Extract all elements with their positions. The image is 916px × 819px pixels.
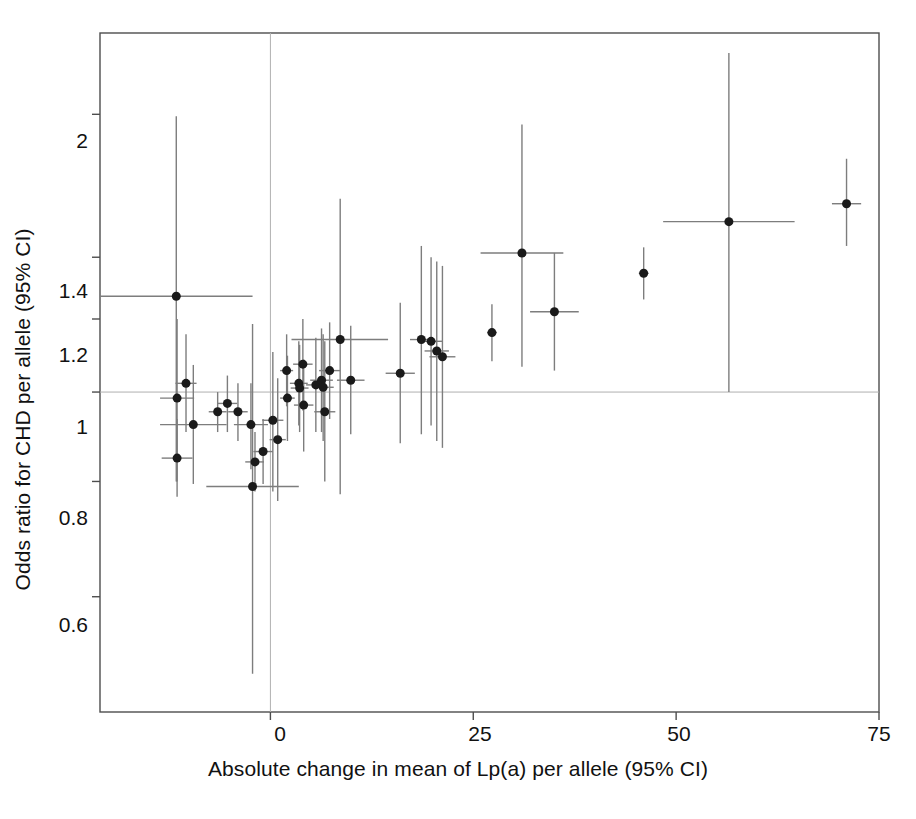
data-point-marker — [487, 328, 496, 337]
reference-lines — [100, 33, 879, 712]
plot-frame-rect — [100, 33, 879, 712]
data-point-marker — [259, 447, 268, 456]
plot-canvas — [0, 0, 916, 819]
data-point-marker — [282, 366, 291, 375]
data-point-marker — [438, 352, 447, 361]
data-point-marker — [248, 482, 257, 491]
data-point-marker — [299, 401, 308, 410]
data-point-marker — [320, 407, 329, 416]
data-point-marker — [189, 420, 198, 429]
data-point-marker — [213, 407, 222, 416]
data-point-marker — [396, 369, 405, 378]
data-point-marker — [223, 399, 232, 408]
data-point-marker — [172, 292, 181, 301]
data-point-marker — [517, 248, 526, 257]
data-point-marker — [268, 416, 277, 425]
data-point-marker — [250, 457, 259, 466]
data-point-marker — [639, 269, 648, 278]
data-point-marker — [550, 307, 559, 316]
data-point-marker — [842, 199, 851, 208]
scatter-plot-figure: Odds ratio for CHD per allele (95% CI) A… — [0, 0, 916, 819]
data-point-marker — [724, 217, 733, 226]
data-point-marker — [295, 384, 304, 393]
data-point-marker — [319, 383, 328, 392]
data-point-marker — [346, 376, 355, 385]
error-bars — [100, 53, 861, 674]
data-point-marker — [298, 360, 307, 369]
data-points — [172, 199, 851, 491]
data-point-marker — [417, 335, 426, 344]
data-point-marker — [325, 366, 334, 375]
data-point-marker — [273, 435, 282, 444]
data-point-marker — [233, 407, 242, 416]
plot-frame — [100, 33, 879, 712]
data-point-marker — [173, 394, 182, 403]
data-point-marker — [182, 379, 191, 388]
data-point-marker — [246, 420, 255, 429]
data-point-marker — [173, 454, 182, 463]
axis-ticks — [92, 114, 879, 720]
data-point-marker — [336, 335, 345, 344]
data-point-marker — [283, 394, 292, 403]
data-point-marker — [427, 337, 436, 346]
